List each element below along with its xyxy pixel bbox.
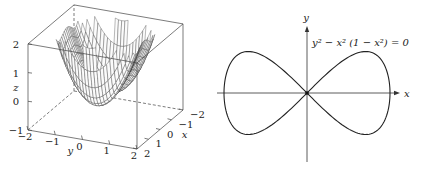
x-tick-label: 1 [156,138,162,149]
origin-point [305,91,309,95]
y-tick-label: −1 [45,136,60,147]
z-tick-label: 1 [13,68,19,79]
equation-label: y² − x² (1 − x²) = 0 [311,37,410,48]
z-tick [28,44,32,45]
surface-plot-3d: −1012z−2−1012y−2−1012x [9,5,205,161]
y-tick [109,140,110,144]
figure: −1012z−2−1012y−2−1012x xyy² − x² (1 − x²… [0,0,421,172]
lemniscate-plot: xyy² − x² (1 − x²) = 0 [217,12,410,162]
y-tick-label: −2 [18,131,33,142]
z-tick [28,73,32,74]
z-tick-label: 2 [13,39,19,50]
y-tick-label: 0 [76,141,82,152]
y-axis-arrow-icon [305,26,309,32]
z-axis-label: z [12,82,19,93]
y-axis-label: y [302,12,309,23]
y-axis-label: y [66,145,73,156]
x-tick-label: 2 [144,148,150,159]
y-tick-label: 1 [104,145,110,156]
x-tick [145,138,149,139]
box-edge [74,5,183,24]
x-tick-label: 0 [167,129,173,140]
y-tick [54,131,55,135]
x-tick [156,129,160,130]
x-axis-label: x [404,88,410,99]
box-edge-hidden [28,91,74,130]
wireframe-surface [56,16,155,105]
z-tick-label: 0 [13,96,19,107]
x-axis-arrow-icon [394,91,400,95]
x-tick [168,119,172,120]
x-tick [179,109,183,110]
z-tick [28,101,32,102]
x-tick [133,148,137,149]
y-tick-label: 2 [131,150,137,161]
x-axis-label: x [182,129,188,140]
y-tick [82,136,83,140]
